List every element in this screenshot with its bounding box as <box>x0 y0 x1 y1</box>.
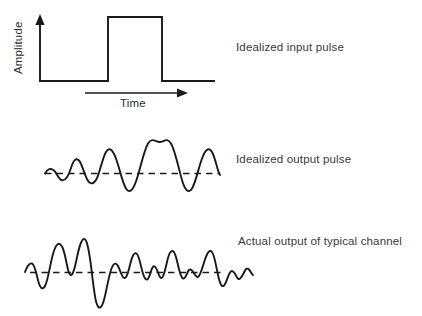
rectangular-pulse-trace <box>40 17 215 81</box>
caption-actual-output-typical-channel: Actual output of typical channel <box>238 236 402 248</box>
caption-idealized-input-pulse: Idealized input pulse <box>236 42 344 54</box>
panel-actual-output-typical-channel <box>25 239 253 308</box>
pulse-response-diagram <box>0 0 422 316</box>
time-axis-label: Time <box>120 98 146 110</box>
panel-idealized-output-pulse <box>45 140 220 191</box>
amplitude-axis-arrow <box>35 14 44 82</box>
caption-idealized-output-pulse: Idealized output pulse <box>236 154 351 166</box>
panel-idealized-input-pulse <box>35 14 215 97</box>
sinc-pulse-trace <box>45 140 220 191</box>
amplitude-axis-label: Amplitude <box>13 22 25 75</box>
